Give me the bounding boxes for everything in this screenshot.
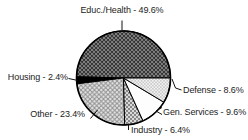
slice-label-defense: Defense - 8.6% xyxy=(183,85,244,95)
slice-label-other: Other - 23.4% xyxy=(30,109,85,119)
pie-slice-educ-health xyxy=(77,31,171,78)
pie-chart-figure: Educ./Health - 49.6% Housing - 2.4% Othe… xyxy=(0,0,248,140)
slice-label-housing: Housing - 2.4% xyxy=(8,72,68,82)
slice-label-industry: Industry - 6.4% xyxy=(131,125,190,135)
defense-leader-line xyxy=(172,79,182,90)
slice-label-gen-services: Gen. Services - 9.6% xyxy=(163,107,246,117)
pie-chart xyxy=(0,0,248,140)
slice-label-educ-health: Educ./Health - 49.6% xyxy=(80,5,163,15)
